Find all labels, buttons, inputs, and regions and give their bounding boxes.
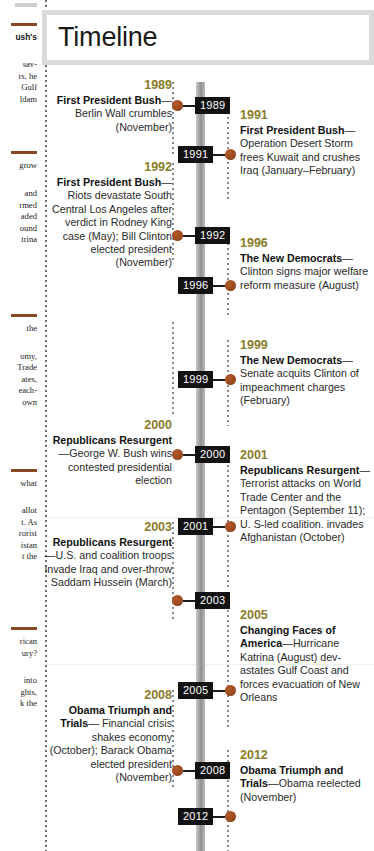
entry-text: U.S. and coalition troops invade Iraq an…	[45, 549, 172, 588]
entry-dash: —	[45, 549, 56, 561]
timeline-entry-1992: 1992 First President Bush—Riots devastat…	[42, 160, 172, 270]
entry-dash: —	[59, 447, 70, 459]
timeline-entry-2008: 2008 Obama Triumph and Trials— Financial…	[42, 688, 172, 784]
year-tag: 2008	[195, 762, 230, 779]
margin-fragment: grow	[0, 160, 37, 172]
timeline-dot-icon	[225, 521, 236, 532]
timeline-marker-1996[interactable]: 1996	[178, 277, 236, 294]
timeline-dot-icon	[225, 811, 236, 822]
entry-year: 2005	[240, 608, 374, 623]
margin-fragment: ghts,	[0, 687, 37, 699]
margin-fragment: rs, he	[0, 71, 37, 83]
margin-fragment: ury?	[0, 648, 37, 660]
timeline-entry-1996: 1996 The New Democrats—Clinton signs maj…	[240, 236, 374, 292]
timeline-dot-icon	[172, 230, 183, 241]
entry-body: The New Democrats—Clinton signs major we…	[240, 252, 374, 292]
timeline-stem	[213, 285, 225, 287]
entry-year: 2012	[240, 748, 374, 763]
margin-fragment: each-	[0, 385, 37, 397]
margin-fragment: trina	[0, 234, 37, 246]
entry-heading: The New Democrats	[240, 354, 342, 366]
entry-heading: Republicans Resurgent	[240, 464, 359, 476]
timeline-title-inner: Timeline	[47, 15, 369, 60]
entry-body: Obama Triumph and Trials—Obama reelected…	[240, 764, 374, 804]
entry-year: 1991	[240, 108, 372, 123]
margin-fragment: t. As	[0, 517, 37, 529]
timeline-title-frame: Timeline	[42, 10, 374, 65]
entry-text: Berlin Wall crumbles (November)	[75, 107, 172, 132]
margin-fragment: k the	[0, 698, 37, 710]
timeline-marker-2003[interactable]: 2003	[172, 592, 230, 609]
timeline-spine	[196, 82, 205, 851]
entry-body: First President Bush—Berlin Wall crumble…	[48, 94, 172, 134]
timeline-dot-icon	[225, 685, 236, 696]
entry-text: Riots devastate South Central Los Angele…	[52, 189, 172, 268]
entry-text: Operation Desert Storm frees Kuwait and …	[240, 137, 360, 176]
timeline-marker-2005[interactable]: 2005	[178, 682, 236, 699]
timeline-dot-icon	[225, 280, 236, 291]
timeline-stem	[183, 454, 195, 456]
year-tag: 1989	[195, 97, 230, 114]
timeline-marker-2012[interactable]: 2012	[178, 808, 236, 825]
entry-heading: First President Bush	[240, 124, 345, 136]
year-tag: 1991	[178, 146, 213, 163]
left-margin-text-column: ush's sav- rs, he Gulf ldam grow and rme…	[0, 0, 40, 851]
year-tag: 1999	[178, 371, 213, 388]
timeline-entry-2012: 2012 Obama Triumph and Trials—Obama reel…	[240, 748, 374, 804]
entry-heading: The New Democrats	[240, 252, 342, 264]
entry-heading: First President Bush	[57, 94, 162, 106]
entry-year: 1996	[240, 236, 374, 251]
connector-rail-left	[172, 163, 174, 263]
margin-fragment: omy,	[0, 351, 37, 363]
timeline-entry-1991: 1991 First President Bush—Operation Dese…	[240, 108, 372, 178]
entry-year: 1989	[48, 78, 172, 93]
entry-year: 2001	[240, 448, 374, 463]
entry-dash: —	[161, 94, 172, 106]
timeline-marker-2008[interactable]: 2008	[172, 762, 230, 779]
timeline-entry-2001: 2001 Republicans Resurgent—Terrorist att…	[240, 448, 374, 544]
timeline-stem	[213, 526, 225, 528]
connector-rail-left	[172, 82, 174, 154]
timeline-dot-icon	[172, 449, 183, 460]
timeline-marker-2000[interactable]: 2000	[172, 446, 230, 463]
margin-fragment: t the	[0, 551, 37, 563]
timeline-entry-1989: 1989 First President Bush—Berlin Wall cr…	[48, 78, 172, 134]
margin-fragment: ush's	[0, 32, 37, 43]
timeline-marker-1992[interactable]: 1992	[172, 227, 230, 244]
entry-heading: First President Bush	[57, 176, 162, 188]
timeline-dot-icon	[172, 100, 183, 111]
margin-fragment: what	[0, 478, 37, 490]
year-tag: 2001	[178, 518, 213, 535]
timeline-marker-1991[interactable]: 1991	[178, 146, 236, 163]
year-tag: 2000	[195, 446, 230, 463]
margin-fragment: Trade	[0, 362, 37, 374]
connector-rail-right	[227, 610, 229, 728]
margin-fragment: allot	[0, 505, 37, 517]
margin-fragment: rorist	[0, 528, 37, 540]
entry-body: First President Bush—Riots devastate Sou…	[42, 176, 172, 270]
connector-rail-left	[172, 322, 174, 414]
margin-fragment: aded	[0, 211, 37, 223]
margin-fragment: ound	[0, 223, 37, 235]
timeline-entry-2000: 2000 Republicans Resurgent—George W. Bus…	[48, 418, 172, 488]
margin-fragment: istan	[0, 540, 37, 552]
timeline-marker-1999[interactable]: 1999	[178, 371, 236, 388]
timeline-dot-icon	[172, 595, 183, 606]
entry-year: 1992	[42, 160, 172, 175]
entry-heading: Republicans Resurgent	[53, 434, 172, 446]
year-tag: 2003	[195, 592, 230, 609]
year-tag: 1996	[178, 277, 213, 294]
entry-body: Obama Triumph and Trials— Financial cris…	[42, 704, 172, 784]
timeline-marker-1989[interactable]: 1989	[172, 97, 230, 114]
timeline-stem	[213, 816, 225, 818]
entry-dash: —	[282, 637, 293, 649]
timeline-marker-2001[interactable]: 2001	[178, 518, 236, 535]
margin-fragment: rmed	[0, 200, 37, 212]
year-tag: 1992	[195, 227, 230, 244]
timeline-page: ush's sav- rs, he Gulf ldam grow and rme…	[0, 0, 374, 851]
entry-body: Changing Faces of America—Hurricane Katr…	[240, 624, 374, 704]
entry-dash: —	[342, 354, 353, 366]
year-tag: 2012	[178, 808, 213, 825]
page-title: Timeline	[47, 24, 157, 51]
entry-year: 2000	[48, 418, 172, 433]
